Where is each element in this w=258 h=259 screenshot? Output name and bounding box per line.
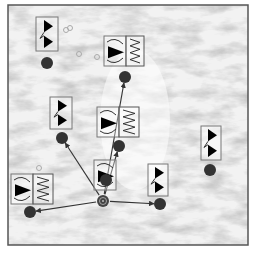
diagram-canvas xyxy=(0,0,258,259)
glyph-box xyxy=(148,164,168,196)
node-dot[interactable] xyxy=(41,57,53,69)
node-dot[interactable] xyxy=(204,164,216,176)
node-dot[interactable] xyxy=(119,71,131,83)
node-dot[interactable] xyxy=(154,198,166,210)
node-n6[interactable] xyxy=(94,160,116,190)
network-diagram xyxy=(0,0,258,259)
node-dot[interactable] xyxy=(113,140,125,152)
node-dot[interactable] xyxy=(24,206,36,218)
hub-node[interactable] xyxy=(97,195,109,207)
node-dot[interactable] xyxy=(100,174,112,186)
glyph-box xyxy=(50,97,72,129)
target-center xyxy=(102,200,104,202)
node-dot[interactable] xyxy=(56,132,68,144)
